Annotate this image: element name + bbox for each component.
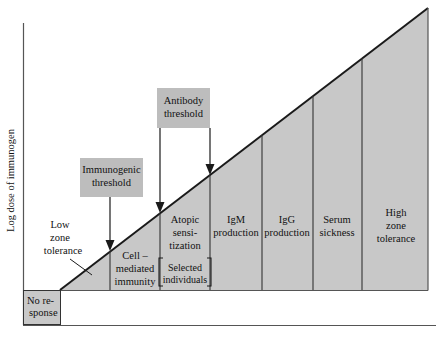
dose-response-diagram: No re- sponse Log dose of immunogen Low … xyxy=(0,0,441,343)
zone-label-atopic-sensitization-line3: tization xyxy=(169,240,201,251)
immunogenic-threshold-line1: Immunogenic xyxy=(82,164,141,175)
selected-individuals-line2: individuals xyxy=(163,274,208,285)
no-response-label-line1: No re- xyxy=(27,295,55,306)
zone-label-igg-production-line1: IgG xyxy=(279,214,296,225)
zone-label-high-zone-tolerance-line2: zone xyxy=(386,220,406,231)
antibody-threshold-line2: threshold xyxy=(164,108,204,119)
antibody-threshold-line1: Antibody xyxy=(164,95,204,106)
no-response-label-line2: sponse xyxy=(29,307,58,318)
zone-label-cell-mediated-immunity-line2: mediated xyxy=(116,263,155,274)
zone-label-atopic-sensitization-line1: Atopic xyxy=(171,214,200,225)
zone-label-igm-production-line2: production xyxy=(213,227,259,238)
low-zone-tolerance-line2: zone xyxy=(50,232,70,243)
zone-label-igg-production-line2: production xyxy=(264,227,310,238)
low-zone-tolerance-line3: tolerance xyxy=(44,245,83,256)
zone-label-serum-sickness-line1: Serum xyxy=(323,214,350,225)
immunogenic-threshold-line2: threshold xyxy=(92,177,132,188)
zone-label-cell-mediated-immunity-line3: immunity xyxy=(115,276,157,287)
low-zone-tolerance-line1: Low xyxy=(50,219,70,230)
zone-label-serum-sickness-line2: sickness xyxy=(320,227,355,238)
zone-label-atopic-sensitization-line2: sensi- xyxy=(173,227,198,238)
zone-label-igm-production-line1: IgM xyxy=(227,214,246,225)
zone-label-high-zone-tolerance-line1: High xyxy=(386,207,408,218)
y-axis-label: Log dose of immunogen xyxy=(5,128,16,232)
selected-individuals-line1: Selected xyxy=(168,262,202,273)
zone-label-high-zone-tolerance-line3: tolerance xyxy=(377,233,416,244)
zone-label-cell-mediated-immunity-line1: Cell – xyxy=(122,250,148,261)
